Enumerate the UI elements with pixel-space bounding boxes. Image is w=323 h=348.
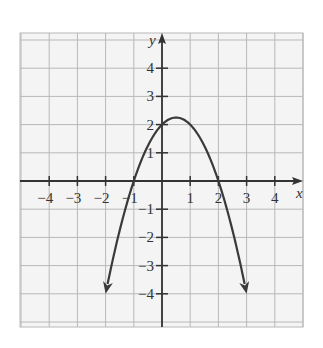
y-tick-label: −1 — [138, 201, 154, 217]
y-tick-label: 3 — [147, 88, 155, 104]
y-tick-label: 4 — [147, 60, 155, 76]
y-tick-label: −3 — [138, 258, 154, 274]
x-tick-label: −2 — [94, 190, 110, 206]
y-tick-label: 2 — [147, 117, 155, 133]
x-tick-label: 3 — [243, 190, 251, 206]
y-tick-label: −4 — [138, 286, 154, 302]
x-axis-label: x — [295, 185, 303, 201]
y-axis-label: y — [147, 32, 156, 48]
x-tick-label: −4 — [37, 190, 53, 206]
y-tick-label: −2 — [138, 229, 154, 245]
parabola-chart: −4−3−2−11234−4−3−2−11234 x y — [0, 0, 323, 348]
x-tick-label: −3 — [65, 190, 81, 206]
x-tick-label: 1 — [186, 190, 194, 206]
x-tick-label: 4 — [271, 190, 279, 206]
